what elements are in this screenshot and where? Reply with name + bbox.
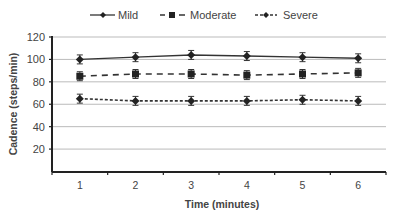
square-marker-icon [169, 12, 175, 18]
data-point [243, 97, 251, 105]
legend-label: Mild [118, 9, 138, 21]
diamond-marker-icon [263, 12, 269, 18]
series-severe [76, 94, 362, 105]
data-point [243, 52, 251, 60]
data-point [299, 53, 307, 61]
data-point [76, 95, 84, 103]
data-point [188, 70, 195, 77]
y-axis-label: Cadence (steps/min) [7, 53, 19, 156]
data-point [132, 53, 140, 61]
data-point [76, 55, 84, 63]
x-axis-label: Time (minutes) [185, 198, 259, 210]
data-point [355, 69, 362, 76]
legend-item-moderate: Moderate [160, 9, 236, 21]
line-chart: Mild Moderate Severe 20406080100120 1234… [0, 0, 403, 218]
series-mild [76, 50, 362, 63]
legend-item-mild: Mild [90, 9, 138, 21]
y-tick-label: 120 [27, 31, 45, 43]
data-point [132, 97, 140, 105]
diamond-marker-icon [100, 12, 106, 18]
y-tick-label: 80 [33, 76, 45, 88]
x-axis-ticks: 123456 [52, 172, 386, 191]
data-point [187, 97, 195, 105]
legend-label: Severe [283, 9, 318, 21]
y-tick-label: 20 [33, 143, 45, 155]
data-point [299, 96, 307, 104]
y-axis-ticks: 20406080100120 [27, 31, 52, 155]
series-group [76, 50, 362, 105]
x-tick-label: 1 [77, 179, 83, 191]
y-tick-label: 40 [33, 121, 45, 133]
data-point [354, 54, 362, 62]
legend-label: Moderate [190, 9, 236, 21]
x-tick-label: 2 [133, 179, 139, 191]
data-point [187, 51, 195, 59]
data-point [299, 70, 306, 77]
x-tick-label: 6 [355, 179, 361, 191]
x-tick-label: 3 [188, 179, 194, 191]
data-point [243, 72, 250, 79]
series-moderate [76, 68, 361, 80]
data-point [354, 97, 362, 105]
data-point [132, 70, 139, 77]
legend-item-severe: Severe [255, 9, 318, 21]
y-tick-label: 100 [27, 53, 45, 65]
legend: Mild Moderate Severe [90, 9, 318, 21]
data-point [76, 73, 83, 80]
y-tick-label: 60 [33, 98, 45, 110]
chart-canvas: Mild Moderate Severe 20406080100120 1234… [0, 0, 403, 218]
gridlines [52, 37, 386, 149]
x-tick-label: 5 [300, 179, 306, 191]
x-tick-label: 4 [244, 179, 250, 191]
